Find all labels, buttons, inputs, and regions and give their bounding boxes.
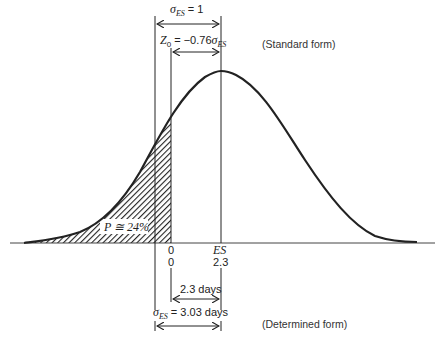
z0-label: Z0 = −0.76σES <box>160 33 226 49</box>
sigma-standard-label: σES = 1 <box>170 2 203 18</box>
tick-zero-determined: 0 <box>168 256 174 268</box>
tick-es-standard: ES <box>212 243 226 257</box>
determined-form-label: (Determined form) <box>262 318 347 330</box>
probability-label: P ≅ 24% <box>103 220 149 234</box>
tick-zero-standard: 0 <box>168 244 174 256</box>
normal-distribution-diagram: P ≅ 24% σES = 1 Z0 = −0.76σES (Standard … <box>0 0 443 340</box>
tick-es-determined: 2.3 <box>213 256 228 268</box>
days-label: 2.3 days <box>180 283 222 295</box>
sigma-determined-label: σES = 3.03 days <box>153 305 229 321</box>
standard-form-label: (Standard form) <box>262 38 336 50</box>
